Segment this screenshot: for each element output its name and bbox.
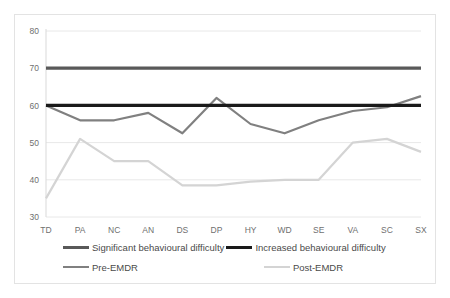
chart-container: 304050607080TDPANCANDSDPHYWDSEVASCSX Sig… [14,14,436,284]
y-axis-tick-50: 50 [30,138,40,148]
legend-swatch-pre-emdr [63,266,89,268]
x-axis-tick-sx: SX [415,225,427,235]
y-axis-tick-30: 30 [30,212,40,222]
legend-label-pre-emdr: Pre-EMDR [92,262,138,273]
legend-label-increased: Increased behavioural difficulty [255,242,385,253]
legend-label-significant: Significant behavioural difficulty [92,242,224,253]
y-axis-tick-80: 80 [30,26,40,36]
chart-legend: Significant behavioural difficulty Incre… [16,237,436,283]
legend-row-2: Pre-EMDR Post-EMDR [16,257,436,277]
x-axis-tick-an: AN [142,225,154,235]
x-axis-tick-dp: DP [211,225,223,235]
y-axis-tick-40: 40 [30,175,40,185]
x-axis-tick-wd: WD [278,225,292,235]
x-axis-tick-pa: PA [75,225,86,235]
legend-item-significant[interactable]: Significant behavioural difficulty [63,237,224,257]
x-axis-tick-nc: NC [108,225,120,235]
legend-item-post-emdr[interactable]: Post-EMDR [264,257,343,277]
legend-swatch-increased [226,246,252,249]
y-axis-tick-60: 60 [30,101,40,111]
y-axis-tick-70: 70 [30,63,40,73]
x-axis-tick-hy: HY [245,225,257,235]
legend-item-pre-emdr[interactable]: Pre-EMDR [63,257,138,277]
x-axis-tick-ds: DS [176,225,188,235]
legend-swatch-post-emdr [264,266,290,268]
series-line-pre-emdr [46,96,421,133]
series-line-post-emdr [46,139,421,199]
x-axis-tick-va: VA [347,225,358,235]
x-axis-tick-sc: SC [381,225,393,235]
x-axis-tick-td: TD [40,225,51,235]
legend-label-post-emdr: Post-EMDR [293,262,343,273]
legend-item-increased[interactable]: Increased behavioural difficulty [226,237,385,257]
legend-row-1: Significant behavioural difficulty Incre… [16,237,436,257]
legend-swatch-significant [63,246,89,249]
x-axis-tick-se: SE [313,225,325,235]
